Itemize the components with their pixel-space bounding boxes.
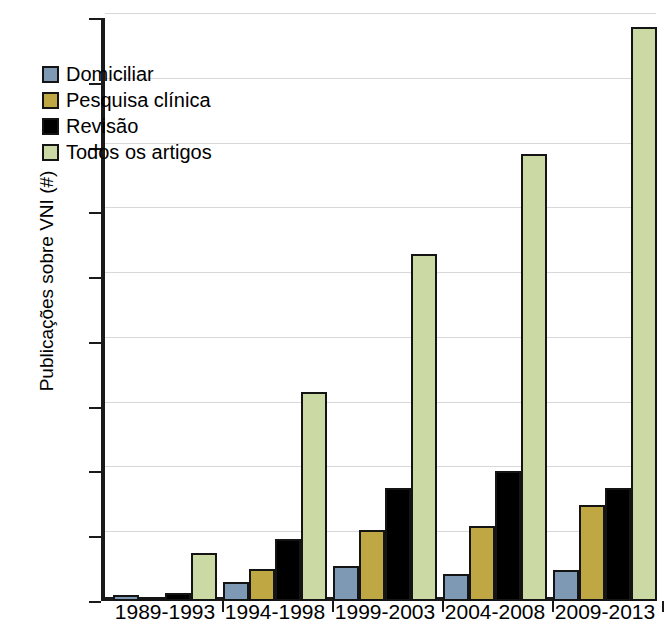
bar: [223, 582, 249, 601]
legend-swatch-icon: [42, 118, 59, 135]
chart-legend: DomiciliarPesquisa clínicaRevisãoTodos o…: [42, 62, 212, 166]
bar-group: [223, 18, 327, 601]
y-tick-mark: [89, 18, 101, 20]
bar: [139, 597, 165, 601]
bar-group: [333, 18, 437, 601]
bar: [605, 488, 631, 601]
gridline: [105, 13, 656, 14]
y-tick-mark: [89, 212, 101, 214]
bar: [469, 526, 495, 601]
legend-label: Revisão: [66, 116, 138, 136]
legend-item: Todos os artigos: [42, 140, 212, 164]
legend-swatch-icon: [42, 144, 59, 161]
bar: [443, 574, 469, 601]
bar-group: [553, 18, 657, 601]
x-tick-label: 2009-2013: [540, 600, 668, 624]
bar: [385, 488, 411, 601]
bar: [521, 154, 547, 601]
y-tick-mark: [89, 342, 101, 344]
bar: [275, 539, 301, 601]
legend-item: Pesquisa clínica: [42, 88, 212, 112]
y-tick-mark: [89, 407, 101, 409]
legend-item: Domiciliar: [42, 62, 212, 86]
y-tick-mark: [89, 277, 101, 279]
legend-swatch-icon: [42, 92, 59, 109]
legend-label: Domiciliar: [66, 64, 154, 84]
bar: [579, 505, 605, 601]
bar: [631, 27, 657, 601]
legend-item: Revisão: [42, 114, 212, 138]
bar: [495, 471, 521, 601]
legend-label: Todos os artigos: [66, 142, 212, 162]
bar: [113, 595, 139, 601]
bar: [301, 392, 327, 601]
bar: [411, 254, 437, 601]
y-tick-mark: [89, 471, 101, 473]
y-tick-mark: [89, 536, 101, 538]
bar: [165, 593, 191, 601]
bar: [553, 570, 579, 601]
legend-label: Pesquisa clínica: [66, 90, 211, 110]
bar-group: [443, 18, 547, 601]
bar: [333, 566, 359, 601]
legend-swatch-icon: [42, 66, 59, 83]
bar: [249, 569, 275, 601]
bar: [191, 553, 217, 601]
bar: [359, 530, 385, 601]
